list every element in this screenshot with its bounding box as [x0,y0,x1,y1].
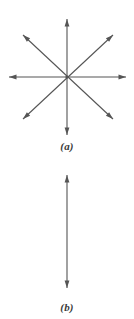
figure-panel-a: (a) [0,0,134,160]
figure-root: (a) (b) [0,0,134,319]
arrowhead [65,128,70,136]
arrowhead [65,175,70,183]
single-arrow-canvas [0,160,134,295]
arrowhead [65,19,70,27]
arrowhead [65,281,70,289]
panel-b-label: (b) [0,301,134,313]
arrowhead [9,75,17,80]
vertical-double-arrow [65,175,70,288]
figure-panel-b: (b) [0,160,134,319]
panel-a-label: (a) [0,140,134,152]
star-center-point [65,75,68,78]
arrowhead [119,75,127,80]
star-diagram-canvas [0,0,134,140]
